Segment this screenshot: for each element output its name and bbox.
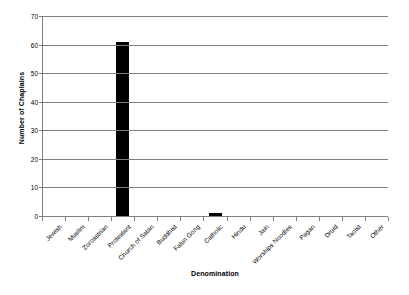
gridline	[42, 130, 388, 131]
y-tick-label: 30	[31, 127, 38, 134]
x-tick-mark	[88, 217, 89, 221]
x-tick-mark	[365, 217, 366, 221]
gridline	[42, 73, 388, 74]
x-axis-category-label: Catholic	[202, 223, 224, 245]
x-axis-category-label-text: Other	[369, 223, 385, 239]
x-tick-mark	[203, 217, 204, 221]
gridline	[42, 159, 388, 160]
gridline	[42, 187, 388, 188]
x-tick-mark	[227, 217, 228, 221]
x-axis-category-label: Jain	[257, 223, 270, 236]
x-tick-mark	[42, 217, 43, 221]
x-axis-category-label-text: Jewish	[43, 223, 62, 242]
x-axis-category-label-text: Jain	[257, 223, 270, 236]
x-axis-category-label: Druid	[323, 223, 339, 239]
gridline	[42, 102, 388, 103]
x-axis-category-label: Muslim	[66, 223, 86, 243]
y-tick-label: 20	[31, 156, 38, 163]
x-axis-category-label-text: Hindu	[230, 223, 247, 240]
x-axis-category-label: Pagan	[298, 223, 316, 241]
x-axis-category-label-text: Buddhist	[155, 223, 178, 246]
x-axis-category-label-text: Muslim	[66, 223, 86, 243]
y-tick-mark	[39, 16, 42, 17]
x-axis-category-label-text: Pagan	[298, 223, 316, 241]
gridline	[42, 216, 388, 217]
x-tick-mark	[157, 217, 158, 221]
plot-area: 010203040506070	[42, 16, 388, 216]
y-tick-mark	[39, 45, 42, 46]
x-tick-mark	[273, 217, 274, 221]
x-tick-mark	[65, 217, 66, 221]
x-tick-mark	[180, 217, 181, 221]
gridline	[42, 16, 388, 17]
x-tick-mark	[319, 217, 320, 221]
y-tick-label: 0	[34, 213, 38, 220]
x-axis-category-label: Other	[369, 223, 385, 239]
y-tick-label: 40	[31, 99, 38, 106]
y-tick-label: 10	[31, 184, 38, 191]
y-tick-label: 70	[31, 13, 38, 20]
x-axis-category-label: Jewish	[43, 223, 62, 242]
bar	[116, 42, 129, 216]
y-tick-mark	[39, 187, 42, 188]
gridline	[42, 45, 388, 46]
y-tick-mark	[39, 73, 42, 74]
x-tick-mark	[250, 217, 251, 221]
y-tick-mark	[39, 159, 42, 160]
x-tick-mark	[134, 217, 135, 221]
x-tick-mark	[388, 217, 389, 221]
x-axis-category-label-text: Taoist	[345, 223, 362, 240]
x-axis-category-label: Hindu	[230, 223, 247, 240]
y-tick-label: 60	[31, 42, 38, 49]
x-axis-category-label-text: Druid	[323, 223, 339, 239]
x-tick-mark	[342, 217, 343, 221]
x-axis-title: Denomination	[42, 270, 388, 277]
x-axis-category-label: Buddhist	[155, 223, 178, 246]
x-axis-category-label: Taoist	[345, 223, 362, 240]
bar-chart: Number of Chaplains 010203040506070 Jewi…	[0, 0, 409, 295]
y-axis-title: Number of Chaplains	[14, 0, 28, 216]
y-tick-mark	[39, 102, 42, 103]
y-tick-label: 50	[31, 70, 38, 77]
bars-layer	[42, 16, 388, 216]
x-tick-mark	[296, 217, 297, 221]
y-tick-mark	[39, 130, 42, 131]
x-tick-mark	[111, 217, 112, 221]
x-axis-category-label-text: Catholic	[202, 223, 224, 245]
